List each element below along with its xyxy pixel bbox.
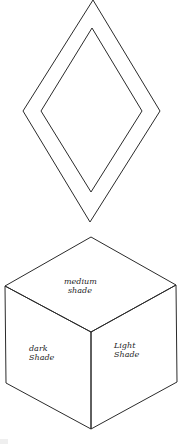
cube [5,237,177,429]
top-face-label-line1: medium [64,277,97,286]
left-face-label-line1: dark [29,344,54,353]
diagram-canvas [0,0,189,444]
corner-smudge [0,439,8,444]
top-face-label-line2: shade [64,286,97,295]
top-face-label: medium shade [64,277,97,295]
right-face-label: Light Shade [114,341,139,359]
outer-diamond [23,0,160,222]
left-face-label: dark Shade [29,344,54,362]
right-face-label-line2: Shade [114,350,139,359]
inner-diamond [41,28,142,192]
left-face-label-line2: Shade [29,353,54,362]
right-face-label-line1: Light [114,341,139,350]
